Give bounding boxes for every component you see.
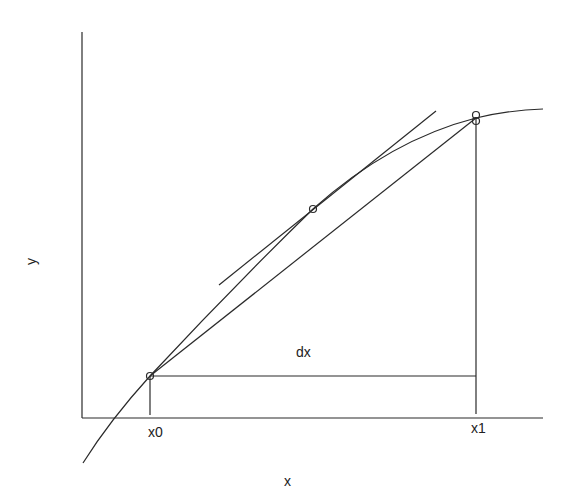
x0-tick-label: x0 xyxy=(148,424,163,440)
function-curve xyxy=(83,109,543,463)
x-axis-label: x xyxy=(284,473,291,489)
tangent-line xyxy=(219,111,436,285)
dx-label: dx xyxy=(296,344,311,360)
y-axis-label: y xyxy=(23,258,39,265)
diagram-canvas: dx x0 x1 x y xyxy=(0,0,570,504)
x1-tick-label: x1 xyxy=(471,420,486,436)
secant-line xyxy=(150,118,476,376)
